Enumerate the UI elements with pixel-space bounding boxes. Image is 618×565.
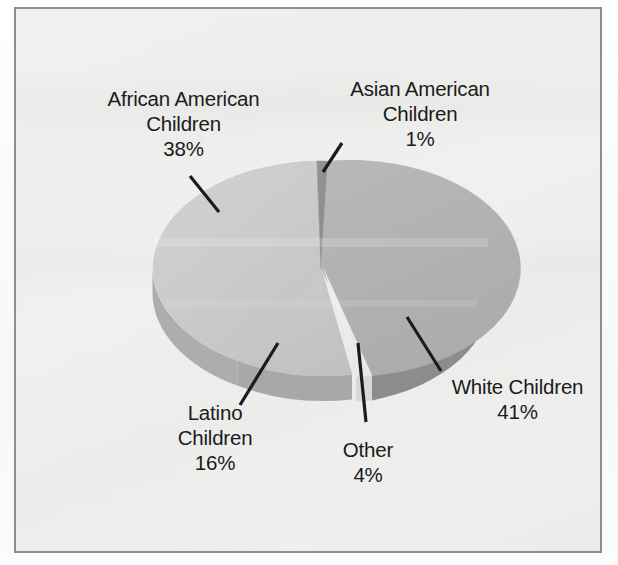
label-other-line1: Other [308, 437, 428, 462]
label-white-children: White Children 41% [430, 374, 605, 424]
label-asian-american-percent: 1% [330, 126, 510, 151]
label-other-percent: 4% [308, 462, 428, 487]
label-latino-children: Latino Children 16% [135, 400, 295, 475]
label-asian-american-line2: Children [330, 101, 510, 126]
label-asian-american-line1: Asian American [330, 76, 510, 101]
pie-highlight-streak-2 [165, 300, 478, 307]
label-african-american-line1: African American [76, 86, 291, 111]
label-asian-american-children: Asian American Children 1% [330, 76, 510, 151]
pie-top-face [153, 160, 520, 376]
label-white-line1: White Children [430, 374, 605, 399]
label-african-american-children: African American Children 38% [76, 86, 291, 161]
label-latino-percent: 16% [135, 450, 295, 475]
label-african-american-percent: 38% [76, 136, 291, 161]
label-latino-line1: Latino [135, 400, 295, 425]
label-other: Other 4% [308, 437, 428, 487]
pie-chart-figure: African American Children 38% Asian Amer… [0, 0, 618, 565]
label-white-percent: 41% [430, 399, 605, 424]
label-latino-line2: Children [135, 425, 295, 450]
label-african-american-line2: Children [76, 111, 291, 136]
pie-highlight-streak [154, 238, 488, 247]
